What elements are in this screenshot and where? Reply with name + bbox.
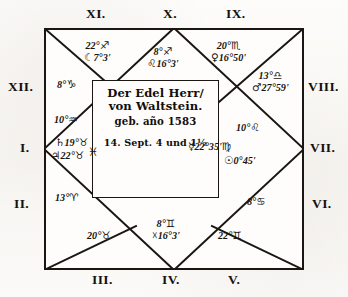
taurus-icon: ♉	[101, 229, 111, 241]
house-3-cusp-degree: 20°	[87, 230, 101, 241]
house-label-1: I.	[20, 140, 29, 156]
saturn-degree: 19°	[65, 137, 79, 148]
saturn-placement: ♄19°♉	[55, 137, 88, 149]
house-label-6: VI.	[312, 196, 332, 212]
house-label-7: VII.	[310, 140, 335, 156]
house-2-cusp-degree: 13°	[55, 192, 69, 203]
birth-year-line: geb. año 1583	[115, 115, 197, 127]
house-label-2: II.	[14, 196, 29, 212]
birth-date-time-line: 14. Sept. 4 und 1½	[104, 137, 207, 149]
scorpio-icon: ♏	[231, 39, 241, 51]
gemini-icon: ♊	[232, 229, 242, 241]
leo-icon: ♌	[250, 121, 260, 133]
aquarius-icon: ♒	[68, 113, 78, 125]
sun-minute: 45'	[243, 155, 256, 166]
north-node-placement: ♌16°3'	[147, 58, 179, 70]
mars-minute: 59'	[276, 82, 289, 93]
house-7-cusp: 10°♌	[236, 122, 260, 134]
house-8-content: 13°♎ ♂27°59'	[252, 70, 289, 94]
house-6-cusp-degree: 8°	[247, 196, 256, 207]
sun-placement: ☉0°45'	[224, 155, 256, 167]
virgo-icon: ♍	[222, 140, 232, 152]
house-1-cusp: 10°♒	[54, 114, 78, 126]
capricorn-icon: ♑	[66, 77, 76, 91]
taurus-icon: ♉	[75, 149, 85, 161]
mars-placement: ♂27°59'	[252, 82, 289, 94]
venus-degree: 16°	[219, 52, 233, 63]
house-5-cusp-degree: 22°	[218, 230, 232, 241]
house-11-content: 22°♐ ☾7°3'	[84, 40, 111, 64]
house-12-content: 8°♑	[57, 78, 76, 91]
house-label-4: IV.	[162, 272, 180, 288]
south-node-degree: 16°	[158, 230, 172, 241]
house-9-cusp-degree: 20°	[217, 40, 231, 51]
moon-icon: ☾	[84, 51, 94, 63]
house-label-11: XI.	[86, 6, 106, 22]
libra-icon: ♎	[273, 69, 283, 81]
jupiter-placement: ♃22°♉	[51, 150, 84, 162]
moon-placement: ☾7°3'	[84, 52, 111, 64]
sun-degree: 0°	[234, 155, 243, 166]
taurus-icon: ♉	[79, 136, 89, 148]
house-label-5: V.	[228, 272, 240, 288]
native-name-line: von Waltstein.	[109, 100, 203, 113]
house-8-cusp-degree: 13°	[259, 70, 273, 81]
house-label-3: III.	[92, 272, 113, 288]
north-node-minute: 3'	[171, 58, 179, 69]
south-node-placement: ☓16°3'	[152, 230, 180, 242]
leo-icon: ♌	[147, 57, 157, 69]
aries-icon: ♈	[69, 191, 79, 203]
south-node-minute: 3'	[172, 230, 180, 241]
house-1-cusp-degree: 10°	[54, 114, 68, 125]
jupiter-icon: ♃	[51, 149, 61, 161]
saturn-icon: ♄	[55, 136, 65, 148]
house-2-cusp: 13°♈	[55, 192, 79, 204]
house-label-8: VIII.	[308, 79, 339, 95]
house-10-content: 8°♐ ♌16°3'	[147, 46, 179, 70]
cancer-icon: ♋	[256, 195, 266, 207]
house-3-cusp: 20°♉	[87, 230, 111, 242]
house-label-12: XII.	[8, 79, 33, 95]
mars-degree: 27°	[262, 82, 276, 93]
house-4-cusp-degree: 8°	[157, 218, 166, 229]
center-inscription: Der Edel Herr/ von Waltstein. geb. año 1…	[92, 80, 219, 198]
house-label-9: IX.	[226, 6, 246, 22]
venus-placement: ♀16°50'	[211, 52, 246, 64]
mars-icon: ♂	[252, 81, 262, 93]
house-10-cusp-degree: 8°	[154, 46, 163, 57]
north-node-degree: 16°	[157, 58, 171, 69]
sun-icon: ☉	[224, 154, 234, 166]
native-title-line: Der Edel Herr/	[107, 87, 204, 100]
house-5-cusp: 22°♊	[218, 230, 242, 242]
house-12-cusp: 8°♑	[57, 78, 76, 91]
moon-minute: 3'	[103, 52, 111, 63]
venus-minute: 50'	[233, 52, 246, 63]
house-4-content: 8°♊ ☓16°3'	[152, 218, 180, 242]
house-9-content: 20°♏ ♀16°50'	[211, 40, 246, 64]
house-7-cusp-degree: 10°	[236, 122, 250, 133]
gemini-icon: ♊	[166, 217, 176, 229]
sagittarius-icon: ♐	[100, 39, 110, 51]
sagittarius-icon: ♐	[163, 45, 173, 57]
house-6-cusp: 8°♋	[247, 196, 266, 208]
house-12-cusp-degree: 8°	[57, 79, 66, 90]
moon-degree: 7°	[94, 52, 103, 63]
jupiter-degree: 22°	[61, 150, 75, 161]
house-11-cusp-degree: 22°	[85, 40, 99, 51]
house-label-10: X.	[163, 6, 177, 22]
venus-icon: ♀	[211, 51, 219, 63]
